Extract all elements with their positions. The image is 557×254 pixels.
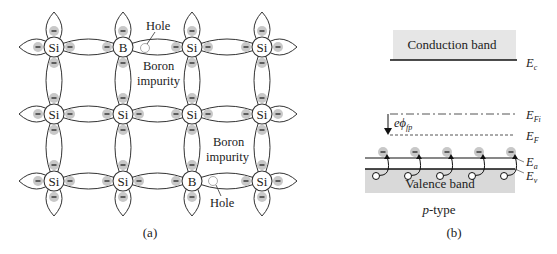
- electron-icon: [187, 93, 197, 103]
- electron-icon: [49, 58, 59, 68]
- semiconductor-diagram: SiBSiSiSiSiSiSiSiSiBSi Hole Boron impuri…: [0, 0, 557, 254]
- electron-icon: [273, 176, 283, 186]
- bond-line: [192, 39, 262, 47]
- boron-top-label-1: Boron: [143, 59, 175, 73]
- electron-icon: [118, 26, 128, 36]
- electron-icon: [241, 176, 251, 186]
- electron-icon: [65, 176, 75, 186]
- svg-text:Si: Si: [187, 107, 198, 122]
- svg-text:B: B: [188, 174, 197, 189]
- silicon-atom: Si: [252, 37, 272, 57]
- svg-text:Si: Si: [257, 174, 268, 189]
- electron-icon: [187, 58, 197, 68]
- electron-icon: [273, 42, 283, 52]
- electron-icon: [49, 93, 59, 103]
- bond-line: [192, 114, 262, 122]
- electron-icon: [118, 125, 128, 135]
- silicon-atom: Si: [252, 104, 272, 124]
- electron-icon: [118, 192, 128, 202]
- potential-label: eϕfp: [394, 116, 412, 132]
- electron-icon: [187, 125, 197, 135]
- hole-bottom-label: Hole: [210, 196, 235, 210]
- conduction-band-label: Conduction band: [407, 37, 497, 52]
- electron-icon: [65, 109, 75, 119]
- p-type-label: p-type: [421, 202, 455, 217]
- electron-icon: [187, 26, 197, 36]
- bond-line: [192, 106, 262, 114]
- electron-icon: [102, 176, 112, 186]
- electron-icon: [102, 109, 112, 119]
- electron-icon: [33, 176, 43, 186]
- svg-text:Si: Si: [49, 174, 60, 189]
- electron-icon: [49, 192, 59, 202]
- silicon-atom: Si: [44, 37, 64, 57]
- hole-top-icon: [141, 44, 150, 53]
- electron-icon: [187, 192, 197, 202]
- silicon-atom: Si: [113, 104, 133, 124]
- electron-icon: [257, 58, 267, 68]
- electron-icon: [203, 42, 213, 52]
- electron-icon: [257, 93, 267, 103]
- hole-top-label: Hole: [146, 19, 171, 33]
- bond-line: [192, 47, 262, 55]
- potential-arrow-head: [384, 128, 392, 135]
- svg-text:Si: Si: [118, 174, 129, 189]
- electron-icon: [257, 160, 267, 170]
- svg-text:Si: Si: [49, 40, 60, 55]
- silicon-atom: Si: [182, 104, 202, 124]
- electron-icon: [49, 160, 59, 170]
- electron-icon: [241, 109, 251, 119]
- svg-text:Si: Si: [118, 107, 129, 122]
- boron-bottom-label-2: impurity: [206, 150, 250, 164]
- bond-line: [192, 181, 262, 189]
- svg-text:Si: Si: [49, 107, 60, 122]
- svg-text:B: B: [119, 40, 128, 55]
- electron-icon: [33, 109, 43, 119]
- silicon-atom: Si: [113, 171, 133, 191]
- electron-icon: [241, 42, 251, 52]
- electron-icon: [102, 42, 112, 52]
- electron-icon: [257, 125, 267, 135]
- electron-icon: [257, 26, 267, 36]
- caption-a: (a): [143, 225, 157, 240]
- hole-bottom-pointer: [216, 185, 221, 196]
- electron-icon: [49, 125, 59, 135]
- electron-icon: [171, 176, 181, 186]
- ef-label: EF: [525, 129, 539, 145]
- caption-b: (b): [446, 225, 461, 240]
- electron-icon: [171, 42, 181, 52]
- electron-icon: [203, 109, 213, 119]
- hole-top-pointer: [147, 32, 155, 44]
- ec-label: Ec: [525, 56, 538, 72]
- electron-icon: [118, 160, 128, 170]
- silicon-atom: Si: [182, 37, 202, 57]
- boron-bottom-label-1: Boron: [213, 135, 245, 149]
- electron-icon: [187, 160, 197, 170]
- electron-icon: [33, 42, 43, 52]
- bond-line: [192, 173, 262, 181]
- electron-icon: [273, 109, 283, 119]
- ev-label: Ev: [525, 169, 538, 185]
- silicon-lattice-panel: SiBSiSiSiSiSiSiSiSiBSi Hole Boron impuri…: [19, 12, 297, 240]
- electron-icon: [118, 58, 128, 68]
- valence-band-label: Valence band: [405, 176, 475, 191]
- silicon-atom: Si: [44, 104, 64, 124]
- energy-band-panel: Conduction band Ec EFi EF eϕfp Ea Ev Val…: [365, 30, 541, 240]
- boron-top-label-2: impurity: [137, 74, 181, 88]
- electron-icon: [118, 93, 128, 103]
- efi-label: EFi: [525, 108, 541, 124]
- svg-text:Si: Si: [257, 40, 268, 55]
- boron-atom: B: [182, 171, 202, 191]
- electron-icon: [49, 26, 59, 36]
- electron-icon: [134, 109, 144, 119]
- svg-text:Si: Si: [187, 40, 198, 55]
- silicon-atom: Si: [252, 171, 272, 191]
- silicon-atom: Si: [44, 171, 64, 191]
- boron-atom: B: [113, 37, 133, 57]
- svg-text:Si: Si: [257, 107, 268, 122]
- electron-icon: [65, 42, 75, 52]
- electron-icon: [257, 192, 267, 202]
- hole-bottom-icon: [209, 177, 218, 186]
- electron-icon: [171, 109, 181, 119]
- electron-icon: [134, 176, 144, 186]
